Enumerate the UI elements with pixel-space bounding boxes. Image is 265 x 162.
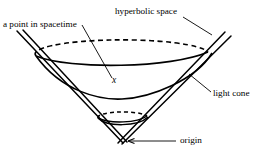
label-origin: origin	[180, 136, 202, 145]
upper-hyperbolic-sheet	[35, 40, 212, 99]
label-hyperbolic-space: hyperbolic space	[115, 7, 177, 16]
label-point-x: x	[112, 76, 116, 86]
upper-rim-back-arc-dashed	[35, 40, 208, 56]
cone-edge-right-inner	[118, 32, 225, 143]
label-light-cone: light cone	[213, 89, 250, 98]
leader-lines	[82, 17, 212, 143]
figure-canvas: a point in spacetime hyperbolic space li…	[0, 0, 265, 162]
upper-hyperbola-profile	[36, 53, 212, 99]
leader-a-point-in-spacetime	[82, 25, 112, 78]
leader-light-cone	[189, 74, 211, 92]
lower-rim-back-arc-dashed	[98, 112, 147, 118]
cone-edge-left-inner	[23, 30, 127, 142]
leader-hyperbolic-space	[183, 17, 212, 35]
upper-rim-front-arc-solid	[36, 52, 208, 65]
label-a-point-in-spacetime: a point in spacetime	[3, 20, 77, 29]
